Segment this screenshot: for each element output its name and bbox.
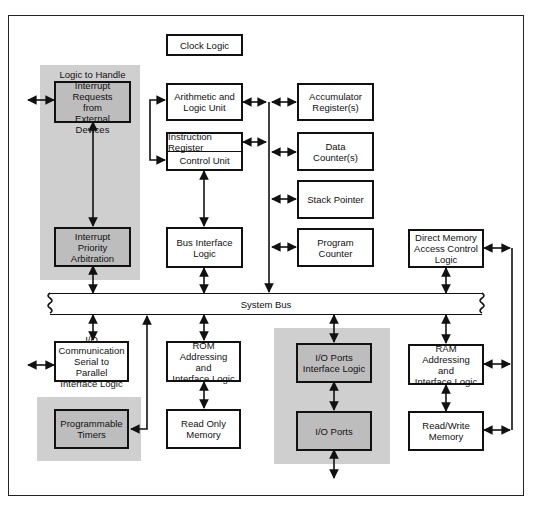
alu-box: Arithmetic and Logic Unit [166, 83, 243, 121]
program-counter-box: Program Counter [297, 228, 374, 267]
accumulator-box: Accumulator Register(s) [297, 83, 374, 121]
io-ports-box: I/O Ports [296, 411, 372, 451]
ram-interface-box: RAM Addressing and Interface Logic [408, 344, 484, 385]
interrupt-handler-box: Logic to Handle Interrupt Requests from … [54, 81, 131, 123]
rom-box: Read Only Memory [166, 409, 241, 449]
dma-box: Direct Memory Access Control Logic [408, 229, 484, 268]
system-bus: System Bus [50, 293, 482, 315]
io-communication-box: I/O Communication Serial to Parallel Int… [54, 341, 129, 382]
programmable-timers-box: Programmable Timers [54, 409, 129, 449]
rom-interface-box: ROM Addressing and Interface Logic [166, 341, 241, 382]
instruction-register-cell: Instruction Register [168, 134, 241, 152]
clock-logic-box: Clock Logic [166, 34, 243, 56]
instruction-control-box: Instruction Register Control Unit [166, 132, 243, 171]
control-unit-cell: Control Unit [168, 152, 241, 170]
io-ports-interface-box: I/O Ports Interface Logic [296, 343, 372, 383]
interrupt-priority-box: Interrupt Priority Arbitration [54, 227, 131, 267]
data-counter-box: Data Counter(s) [297, 132, 374, 171]
stack-pointer-box: Stack Pointer [297, 180, 374, 219]
ram-box: Read/Write Memory [408, 411, 484, 451]
bus-interface-box: Bus Interface Logic [166, 227, 243, 268]
